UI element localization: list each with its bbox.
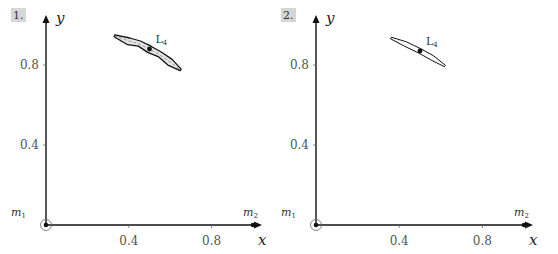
mass-label: m1 bbox=[11, 206, 26, 220]
mass-point bbox=[522, 223, 527, 228]
l4-label: L4 bbox=[156, 33, 168, 47]
figure: 1.xy0.40.80.40.8m1m2L4 2.xy0.40.80.40.8m… bbox=[0, 0, 558, 254]
y-tick-label: 0.8 bbox=[290, 58, 309, 72]
x-tick-label: 0.4 bbox=[390, 234, 409, 248]
y-axis-label: y bbox=[325, 9, 335, 27]
l4-point bbox=[147, 47, 152, 52]
y-tick-label: 0.8 bbox=[20, 58, 39, 72]
l4-point bbox=[418, 49, 423, 54]
mass-point bbox=[251, 223, 256, 228]
mass-point bbox=[314, 223, 319, 228]
y-tick-label: 0.4 bbox=[20, 138, 39, 152]
mass-label: m1 bbox=[281, 206, 296, 220]
y-axis-label: y bbox=[55, 9, 65, 27]
x-tick-label: 0.8 bbox=[202, 234, 221, 248]
y-tick-label: 0.4 bbox=[290, 138, 309, 152]
mass-point bbox=[44, 223, 49, 228]
panel-tag: 2. bbox=[283, 9, 294, 22]
x-tick-label: 0.8 bbox=[473, 234, 492, 248]
panel-1: 1.xy0.40.80.40.8m1m2L4 bbox=[11, 8, 267, 249]
x-axis-label: x bbox=[258, 231, 267, 249]
mass-label: m2 bbox=[514, 206, 529, 220]
x-axis-label: x bbox=[529, 231, 538, 249]
mass-label: m2 bbox=[243, 206, 258, 220]
panel-tag: 1. bbox=[13, 9, 24, 22]
y-axis-arrow-icon bbox=[313, 15, 320, 23]
y-axis-arrow-icon bbox=[43, 15, 50, 23]
x-tick-label: 0.4 bbox=[119, 234, 138, 248]
l4-label: L4 bbox=[426, 35, 438, 49]
orbit-band bbox=[114, 35, 181, 71]
panel-2: 2.xy0.40.80.40.8m1m2L4 bbox=[281, 8, 538, 249]
